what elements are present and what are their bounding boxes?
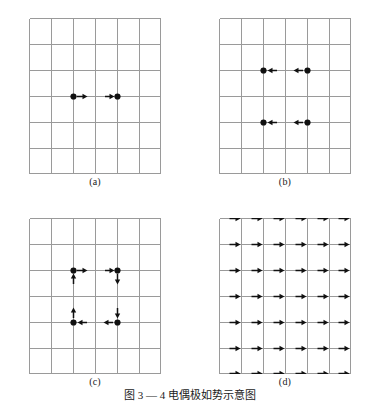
arrow-left: [294, 68, 304, 73]
charge-dot: [260, 119, 266, 125]
arrow-right: [274, 218, 285, 221]
arrow-right: [339, 346, 350, 352]
arrow-right: [252, 242, 263, 248]
arrow-right: [252, 320, 263, 326]
grid-lines: [220, 19, 351, 174]
arrow-left: [294, 120, 304, 125]
panel-a: (a): [0, 0, 190, 200]
grid-lines: [30, 19, 161, 174]
arrow-right: [339, 218, 350, 221]
arrow-right: [274, 320, 285, 326]
arrow-right: [318, 268, 329, 274]
arrow-right: [296, 346, 307, 352]
arrow-right: [296, 371, 307, 374]
arrow-right: [252, 371, 263, 374]
panel-c: (c): [0, 200, 190, 400]
charge-dot: [70, 93, 76, 99]
charge-dot: [114, 93, 120, 99]
charge-dot: [114, 319, 120, 325]
arrow-right: [274, 294, 285, 300]
arrow-right: [274, 346, 285, 352]
arrow-down: [115, 274, 120, 285]
arrow-right: [318, 218, 329, 221]
charge-dot: [70, 267, 76, 273]
arrow-right: [77, 94, 88, 99]
arrow-right: [296, 294, 307, 300]
panel-b: (b): [190, 0, 380, 200]
charge-dot: [114, 267, 120, 273]
charge-dot: [260, 67, 266, 73]
panel-a-svg: [29, 18, 161, 174]
arrow-right: [339, 294, 350, 300]
panel-c-svg: [29, 218, 161, 374]
arrow-right: [296, 242, 307, 248]
arrow-right: [339, 371, 350, 374]
grid-lines: [30, 219, 161, 374]
arrow-right: [252, 294, 263, 300]
arrow-up: [71, 274, 76, 285]
arrow-right: [230, 346, 241, 352]
arrow-right: [274, 268, 285, 274]
panel-a-label: (a): [0, 176, 190, 187]
arrow-right: [77, 268, 88, 273]
arrow-right: [252, 218, 263, 221]
panel-grid: (a): [0, 0, 380, 380]
charge-dot: [304, 119, 310, 125]
charge-dot: [304, 67, 310, 73]
charge-dot: [70, 319, 76, 325]
arrow-down: [115, 308, 120, 319]
arrow-right: [230, 242, 241, 248]
arrow-right: [339, 242, 350, 248]
arrow-right: [296, 320, 307, 326]
arrow-right: [274, 242, 285, 248]
panel-b-plot: [219, 18, 351, 174]
arrow-left: [268, 120, 278, 125]
panel-a-plot: [29, 18, 161, 174]
arrow-right: [296, 268, 307, 274]
arrow-right: [230, 218, 241, 221]
arrow-right: [339, 268, 350, 274]
figure-caption: 图 3 — 4 电偶极如势示意图: [0, 386, 380, 401]
arrow-right: [105, 268, 115, 273]
arrow-right: [318, 346, 329, 352]
arrow-right: [318, 371, 329, 374]
arrow-left: [268, 68, 278, 73]
arrow-right: [105, 94, 115, 99]
figure-container: (a): [0, 0, 380, 401]
arrow-right: [252, 268, 263, 274]
panel-b-label: (b): [190, 176, 380, 187]
arrow-right: [318, 242, 329, 248]
arrow-left: [104, 320, 114, 325]
arrow-right: [230, 371, 241, 374]
arrow-right: [318, 320, 329, 326]
arrow-right: [274, 371, 285, 374]
arrow-right: [339, 320, 350, 326]
arrow-up: [71, 308, 76, 319]
arrow-right: [296, 218, 307, 221]
panel-c-plot: [29, 218, 161, 374]
arrow-right: [318, 294, 329, 300]
panel-d-plot: [219, 218, 351, 374]
arrow-right: [230, 320, 241, 326]
panel-d-svg: [219, 218, 351, 374]
arrow-right: [230, 294, 241, 300]
arrow-right: [252, 346, 263, 352]
arrow-right: [230, 268, 241, 274]
panel-d: (d): [190, 200, 380, 400]
arrow-left: [78, 320, 88, 325]
panel-b-svg: [219, 18, 351, 174]
